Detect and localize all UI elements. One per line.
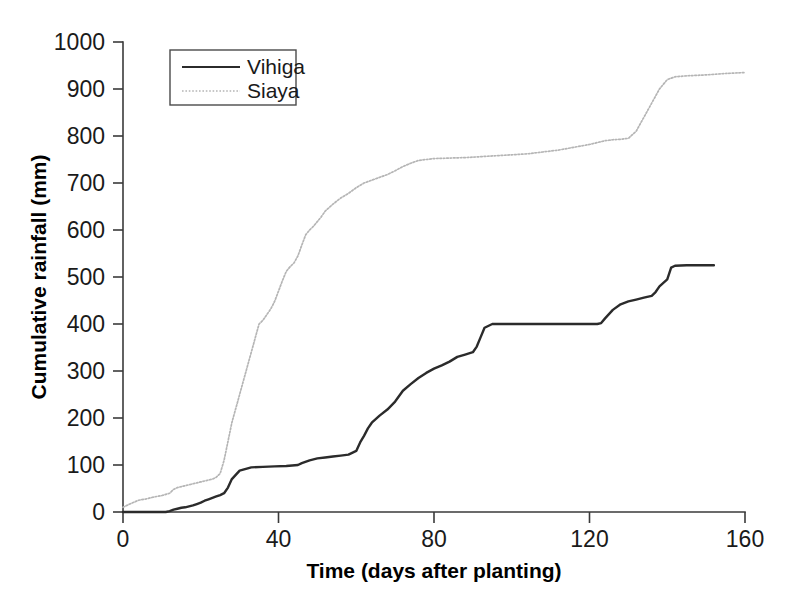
y-tick-label: 1000 xyxy=(54,29,105,55)
y-tick-label: 100 xyxy=(67,452,105,478)
y-tick-label: 400 xyxy=(67,311,105,337)
y-tick-label: 300 xyxy=(67,358,105,384)
x-tick-label: 160 xyxy=(726,526,764,552)
x-axis-title: Time (days after planting) xyxy=(306,559,561,582)
y-tick-label-group: 01002003004005006007008009001000 xyxy=(54,29,105,525)
legend-label-vihiga[interactable]: Vihiga xyxy=(247,55,305,78)
x-tick-label: 120 xyxy=(570,526,608,552)
y-tick-label: 800 xyxy=(67,123,105,149)
y-tick-label: 0 xyxy=(92,499,105,525)
x-tick-group xyxy=(123,512,745,523)
cumulative-rainfall-chart: 01002003004005006007008009001000 0408012… xyxy=(0,0,802,615)
y-tick-label: 700 xyxy=(67,170,105,196)
x-tick-label-group: 04080120160 xyxy=(117,526,765,552)
y-tick-label: 500 xyxy=(67,264,105,290)
data-series-group xyxy=(123,73,745,512)
y-axis-title: Cumulative rainfall (mm) xyxy=(27,154,50,399)
series-line-vihiga xyxy=(123,265,714,512)
y-tick-label: 600 xyxy=(67,217,105,243)
legend: VihigaSiaya xyxy=(170,50,305,105)
x-tick-label: 40 xyxy=(266,526,292,552)
y-tick-label: 200 xyxy=(67,405,105,431)
y-axis: 01002003004005006007008009001000 xyxy=(54,29,123,525)
chart-page: 01002003004005006007008009001000 0408012… xyxy=(0,0,802,615)
legend-label-siaya[interactable]: Siaya xyxy=(247,79,300,102)
x-tick-label: 0 xyxy=(117,526,130,552)
x-tick-label: 80 xyxy=(421,526,447,552)
y-tick-label: 900 xyxy=(67,76,105,102)
x-axis: 04080120160 xyxy=(117,512,765,552)
series-line-siaya xyxy=(123,73,745,508)
y-tick-group xyxy=(113,42,123,512)
